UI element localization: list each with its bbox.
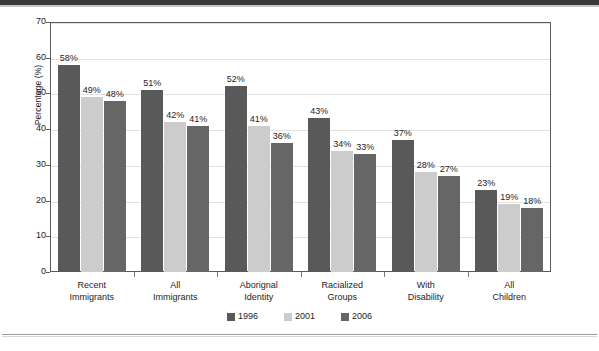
- x-category-line: All: [454, 280, 564, 292]
- legend-item[interactable]: 1996: [227, 312, 258, 321]
- x-category-line: Children: [454, 292, 564, 304]
- legend-label: 1996: [238, 312, 258, 321]
- x-axis-separator: [468, 272, 469, 277]
- legend-item[interactable]: 2001: [284, 312, 315, 321]
- gridline-70: [51, 23, 550, 24]
- bar-value-label: 18%: [515, 197, 549, 206]
- chart-figure: Percentage (%) 706050403020100 58%49%48%…: [0, 0, 599, 351]
- legend-swatch-icon: [227, 313, 235, 321]
- y-tick-mark-0: [46, 272, 50, 273]
- y-tick-label-70: 70: [24, 17, 46, 26]
- bar-value-label: 37%: [386, 129, 420, 138]
- bar-value-label: 27%: [432, 165, 466, 174]
- gridline-30: [51, 166, 550, 167]
- bar-value-label: 58%: [52, 54, 86, 63]
- x-axis-separator: [384, 272, 385, 277]
- x-axis-separator: [134, 272, 135, 277]
- bar-value-label: 33%: [348, 143, 382, 152]
- page-bottom-rule-secondary: [2, 336, 597, 337]
- y-tick-label-30: 30: [24, 160, 46, 169]
- y-tick-label-60: 60: [24, 53, 46, 62]
- legend-swatch-icon: [341, 313, 349, 321]
- plot-area: [50, 22, 551, 272]
- y-tick-label-10: 10: [24, 231, 46, 240]
- y-tick-label-50: 50: [24, 88, 46, 97]
- legend-item[interactable]: 2006: [341, 312, 372, 321]
- legend-label: 2001: [295, 312, 315, 321]
- y-tick-label-40: 40: [24, 124, 46, 133]
- bar-value-label: 23%: [469, 179, 503, 188]
- bar-value-label: 43%: [302, 107, 336, 116]
- legend-label: 2006: [352, 312, 372, 321]
- page-top-rule-shadow: [0, 5, 599, 7]
- gridline-10: [51, 237, 550, 238]
- y-tick-label-0: 0: [24, 267, 46, 276]
- bar-value-label: 41%: [242, 115, 276, 124]
- y-tick-label-20: 20: [24, 196, 46, 205]
- bar-value-label: 41%: [181, 115, 215, 124]
- legend-swatch-icon: [284, 313, 292, 321]
- gridline-40: [51, 130, 550, 131]
- bar-value-label: 52%: [219, 75, 253, 84]
- gridline-20: [51, 202, 550, 203]
- bar-value-label: 51%: [135, 79, 169, 88]
- chart-legend: 199620012006: [0, 312, 599, 321]
- page-bottom-rule: [2, 334, 597, 335]
- x-category-label: AllChildren: [454, 280, 564, 303]
- x-axis-separator: [301, 272, 302, 277]
- x-axis-separator: [217, 272, 218, 277]
- bar-value-label: 48%: [98, 90, 132, 99]
- bar-value-label: 36%: [265, 132, 299, 141]
- gridline-60: [51, 59, 550, 60]
